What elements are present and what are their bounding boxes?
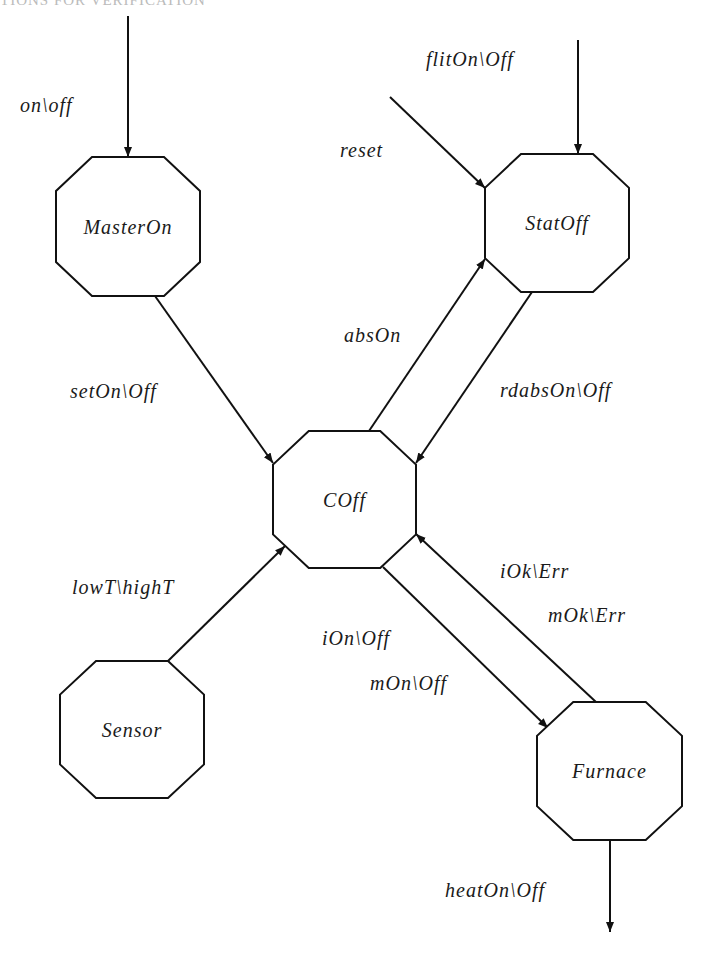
transition-label: iOk\Err [500,560,569,582]
arrow-line [168,546,285,661]
state-label: Furnace [571,760,647,782]
state-node-statoff: StatOff [485,154,629,292]
state-label: Sensor [102,719,162,741]
state-label: StatOff [525,212,590,235]
transition-label: lowT\highT [72,576,175,599]
transition-label: flitOn\Off [426,48,515,71]
transition-rdabson-off [416,292,532,463]
transition-seton-off [155,296,273,463]
arrow-line [155,296,273,463]
transition-label: absOn [344,324,401,346]
arrow-line [416,292,532,463]
state-diagram: MasterOnStatOffCOffSensorFurnace on\offf… [0,0,717,967]
transition-label: setOn\Off [70,380,158,403]
state-node-furnace: Furnace [537,702,682,840]
state-label: COff [323,489,367,512]
state-label: MasterOn [82,216,172,238]
arrow-line [390,97,485,188]
state-node-masteron: MasterOn [56,157,200,296]
transition-label: iOn\Off [322,627,392,650]
transition-reset [390,97,485,188]
transition-lowt-hight [168,546,285,661]
transition-label: heatOn\Off [445,879,546,902]
state-node-sensor: Sensor [60,661,204,798]
transition-label: rdabsOn\Off [500,379,613,402]
diagram-canvas: TIONS FOR VERIFICATION MasterOnStatOffCO… [0,0,717,967]
transition-label: reset [340,139,383,161]
transition-label-secondary: mOn\Off [370,672,448,695]
state-node-coff: COff [273,431,416,568]
transition-ion-mon [383,567,548,728]
transition-label-secondary: mOk\Err [548,604,626,626]
arrow-line [383,567,548,728]
transition-label: on\off [20,94,74,117]
